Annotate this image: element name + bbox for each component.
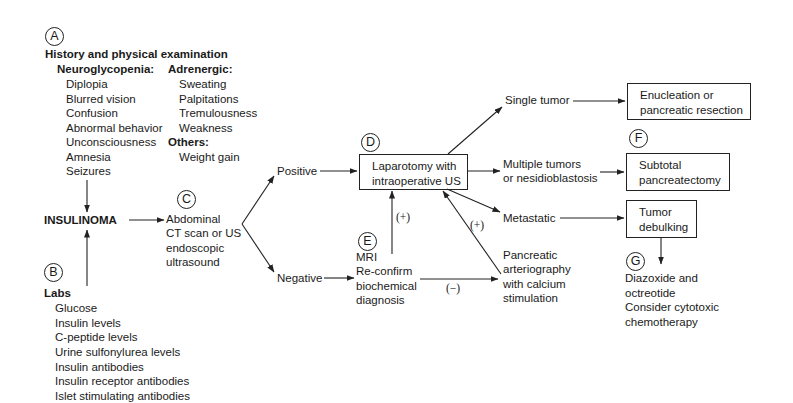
imaging-step: Abdominal <box>166 212 220 227</box>
edge-label-minus: (−) <box>446 281 460 296</box>
arteriography-label: arteriography <box>503 262 571 277</box>
symptom-item: Seizures <box>66 164 111 179</box>
marker-c: C <box>177 190 196 209</box>
symptom-item: Palpitations <box>179 92 238 107</box>
debulking-box: Tumor debulking <box>626 200 697 238</box>
imaging-step: ultrasound <box>166 255 220 270</box>
metastatic-label: Metastatic <box>503 211 555 226</box>
symptom-item: Abnormal behavior <box>66 121 163 136</box>
symptom-item: Weakness <box>179 121 232 136</box>
multiple-tumors-label: or nesidioblastosis <box>503 171 598 186</box>
medical-therapy: octreotide <box>625 286 676 301</box>
box-line: Laparotomy with <box>372 159 467 174</box>
symptom-item: Unconsciousness <box>66 135 156 150</box>
marker-e: E <box>358 232 377 251</box>
marker-b: B <box>44 263 63 282</box>
symptom-item: Amnesia <box>66 150 111 165</box>
arteriography-label: with calcium <box>503 277 566 292</box>
symptom-item: Sweating <box>179 77 226 92</box>
reconfirm-step: diagnosis <box>356 293 405 308</box>
lab-item: Insulin receptor antibodies <box>55 374 189 389</box>
laparotomy-box: Laparotomy with intraoperative US <box>359 154 468 190</box>
reconfirm-step: biochemical <box>356 279 417 294</box>
box-line: intraoperative US <box>372 174 467 189</box>
neuroglycopenia-label: Neuroglycopenia: <box>57 62 154 77</box>
symptom-item: Tremulousness <box>179 106 257 121</box>
symptom-item: Blurred vision <box>66 92 136 107</box>
lab-item: Glucose <box>55 301 97 316</box>
enucleation-box: Enucleation or pancreatic resection <box>627 83 751 120</box>
insulinoma-node: INSULINOMA <box>44 213 117 228</box>
symptom-item: Diplopia <box>66 77 108 92</box>
others-label: Others: <box>168 135 209 150</box>
reconfirm-step: Re-confirm <box>356 264 412 279</box>
symptom-item: Weight gain <box>179 150 240 165</box>
medical-therapy: chemotherapy <box>625 315 698 330</box>
box-line: pancreatic resection <box>640 103 750 118</box>
negative-label: Negative <box>277 271 322 286</box>
single-tumor-label: Single tumor <box>505 93 570 108</box>
labs-heading: Labs <box>44 286 71 301</box>
edge-label-plus: (+) <box>470 218 484 233</box>
medical-therapy: Diazoxide and <box>625 271 698 286</box>
box-line: debulking <box>639 220 696 235</box>
imaging-step: CT scan or US <box>166 226 241 241</box>
lab-item: Islet stimulating antibodies <box>55 389 190 403</box>
box-line: pancreatectomy <box>639 173 729 188</box>
arteriography-label: Pancreatic <box>503 248 557 263</box>
marker-d: D <box>361 133 380 152</box>
medical-therapy: Consider cytotoxic <box>625 300 719 315</box>
lab-item: Insulin levels <box>55 316 121 331</box>
lab-item: Urine sulfonylurea levels <box>55 345 180 360</box>
history-heading: History and physical examination <box>45 47 228 62</box>
subtotal-box: Subtotal pancreatectomy <box>626 153 730 191</box>
edge-label-plus: (+) <box>396 210 410 225</box>
lab-item: Insulin antibodies <box>55 360 144 375</box>
marker-f: F <box>629 129 648 148</box>
arteriography-label: stimulation <box>503 291 558 306</box>
marker-a: A <box>45 27 64 46</box>
reconfirm-step: MRI <box>356 250 377 265</box>
box-line: Enucleation or <box>640 88 750 103</box>
adrenergic-label: Adrenergic: <box>168 62 233 77</box>
positive-label: Positive <box>277 164 317 179</box>
marker-g: G <box>626 252 645 271</box>
lab-item: C-peptide levels <box>55 330 137 345</box>
box-line: Subtotal <box>639 158 729 173</box>
box-line: Tumor <box>639 205 696 220</box>
imaging-step: endoscopic <box>166 241 224 256</box>
multiple-tumors-label: Multiple tumors <box>503 157 581 172</box>
symptom-item: Confusion <box>66 106 118 121</box>
